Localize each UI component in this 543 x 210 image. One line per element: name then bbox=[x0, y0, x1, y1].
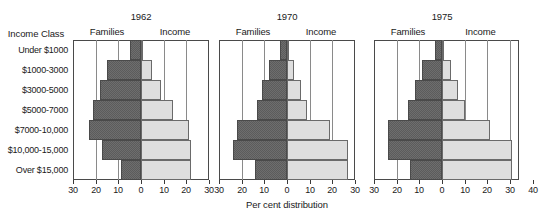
x-axis-tick-label: 10 bbox=[408, 185, 430, 195]
x-axis-tick-label: 10 bbox=[107, 185, 129, 195]
y-axis-category-label: $3000-5000 bbox=[0, 80, 68, 100]
bar-income bbox=[442, 40, 444, 60]
y-axis-category-label: Over $15,000 bbox=[0, 160, 68, 180]
x-axis-title: Per cent distribution bbox=[227, 199, 347, 210]
bar-income bbox=[442, 100, 465, 120]
bar-income bbox=[442, 80, 458, 100]
x-axis-tick-label: 10 bbox=[454, 185, 476, 195]
x-axis-tick-label: 20 bbox=[476, 185, 498, 195]
x-axis-tick bbox=[141, 180, 142, 184]
bar-families bbox=[93, 100, 141, 120]
bar-families bbox=[107, 60, 141, 80]
x-axis-tick bbox=[374, 180, 375, 184]
x-axis-tick-label: 30 bbox=[208, 185, 230, 195]
bar-families bbox=[410, 160, 442, 180]
panel-left-label: Families bbox=[77, 26, 137, 37]
y-axis-labels: Income Class Under $1000$1000-3000$3000-… bbox=[0, 28, 72, 180]
x-axis-tick bbox=[533, 180, 534, 184]
x-axis-tick bbox=[118, 180, 119, 184]
x-axis-tick-label: 10 bbox=[153, 185, 175, 195]
x-axis-tick bbox=[219, 180, 220, 184]
bar-families bbox=[237, 120, 287, 140]
x-axis-tick-label: 0 bbox=[276, 185, 298, 195]
bar-income bbox=[287, 120, 330, 140]
panel-right-label: Income bbox=[451, 26, 511, 37]
y-axis-category-label: $7000-10,000 bbox=[0, 120, 68, 140]
bar-families bbox=[130, 40, 141, 60]
bar-income bbox=[287, 160, 348, 180]
panel-title: 1975 bbox=[412, 11, 472, 22]
panel-left-label: Families bbox=[223, 26, 283, 37]
bar-income bbox=[141, 140, 191, 160]
x-axis-tick bbox=[419, 180, 420, 184]
bar-families bbox=[102, 140, 141, 160]
bar-income bbox=[141, 60, 152, 80]
bar-families bbox=[89, 120, 141, 140]
x-axis-tick-label: 10 bbox=[253, 185, 275, 195]
bar-income bbox=[287, 80, 301, 100]
y-axis-category-label: $10,000-15,000 bbox=[0, 140, 68, 160]
y-axis-header: Income Class bbox=[0, 28, 72, 40]
x-axis-tick bbox=[397, 180, 398, 184]
bar-families bbox=[121, 160, 141, 180]
x-axis-tick-label: 30 bbox=[62, 185, 84, 195]
x-axis-tick bbox=[242, 180, 243, 184]
bar-families bbox=[415, 80, 442, 100]
bar-families bbox=[388, 120, 442, 140]
bar-families bbox=[257, 100, 287, 120]
x-axis-tick-label: 20 bbox=[321, 185, 343, 195]
x-axis-tick bbox=[287, 180, 288, 184]
x-axis-tick bbox=[355, 180, 356, 184]
bar-income bbox=[287, 60, 294, 80]
bar-income bbox=[442, 140, 512, 160]
x-axis-tick-label: 30 bbox=[363, 185, 385, 195]
bar-income bbox=[287, 40, 289, 60]
x-axis-tick bbox=[510, 180, 511, 184]
bar-income bbox=[442, 160, 512, 180]
x-axis-tick bbox=[487, 180, 488, 184]
x-axis-tick-label: 20 bbox=[175, 185, 197, 195]
panel-right-label: Income bbox=[291, 26, 351, 37]
x-axis-tick bbox=[164, 180, 165, 184]
y-axis-category-label: $5000-7000 bbox=[0, 100, 68, 120]
panel-left-label: Families bbox=[378, 26, 438, 37]
x-axis-tick bbox=[442, 180, 443, 184]
x-axis-tick-label: 40 bbox=[522, 185, 543, 195]
bar-income bbox=[141, 80, 161, 100]
x-axis-tick bbox=[465, 180, 466, 184]
bar-income bbox=[141, 100, 173, 120]
x-axis-tick bbox=[310, 180, 311, 184]
x-axis-tick bbox=[332, 180, 333, 184]
x-axis-tick bbox=[264, 180, 265, 184]
x-axis-tick-label: 20 bbox=[386, 185, 408, 195]
bar-families bbox=[262, 80, 287, 100]
x-axis-tick-label: 30 bbox=[499, 185, 521, 195]
x-axis-tick-label: 20 bbox=[85, 185, 107, 195]
bar-families bbox=[435, 40, 442, 60]
bar-families bbox=[280, 40, 287, 60]
bar-families bbox=[408, 100, 442, 120]
bar-families bbox=[388, 140, 442, 160]
x-axis-tick bbox=[96, 180, 97, 184]
bar-families bbox=[422, 60, 442, 80]
bar-families bbox=[100, 80, 141, 100]
bar-income bbox=[141, 120, 189, 140]
bar-income bbox=[287, 100, 307, 120]
bar-income bbox=[442, 60, 451, 80]
bar-families bbox=[255, 160, 287, 180]
x-axis-tick bbox=[209, 180, 210, 184]
panel-title: 1962 bbox=[111, 11, 171, 22]
bar-income bbox=[442, 120, 490, 140]
x-axis-tick-label: 10 bbox=[299, 185, 321, 195]
x-axis-tick bbox=[73, 180, 74, 184]
y-axis-category-label: Under $1000 bbox=[0, 40, 68, 60]
x-axis-tick-label: 0 bbox=[431, 185, 453, 195]
panel-title: 1970 bbox=[257, 11, 317, 22]
bar-income bbox=[141, 160, 191, 180]
x-axis-tick bbox=[186, 180, 187, 184]
y-axis-category-label: $1000-3000 bbox=[0, 60, 68, 80]
bar-income bbox=[287, 140, 348, 160]
x-axis-tick-label: 0 bbox=[130, 185, 152, 195]
x-axis-tick-label: 20 bbox=[231, 185, 253, 195]
